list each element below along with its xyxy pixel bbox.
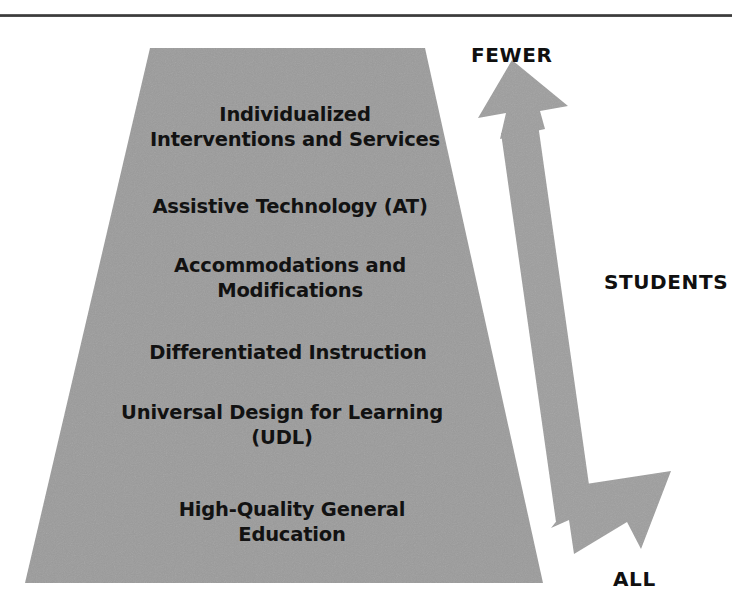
arrow-top-label: FEWER xyxy=(471,43,552,67)
pyramid-tier-label-high-quality-general-education: High-Quality General Education xyxy=(134,497,450,547)
arrow-bottom-label: ALL xyxy=(613,567,656,591)
figure-canvas: Individualized Interventions and Service… xyxy=(0,0,732,610)
pyramid-tier-label-differentiated-instruction: Differentiated Instruction xyxy=(120,340,456,365)
pyramid-tier-label-individualized: Individualized Interventions and Service… xyxy=(140,102,450,152)
pyramid-tier-label-accommodations: Accommodations and Modifications xyxy=(132,253,448,303)
pyramid-tier-label-assistive-technology: Assistive Technology (AT) xyxy=(130,194,450,219)
pyramid-tier-label-udl: Universal Design for Learning (UDL) xyxy=(112,400,452,450)
arrow-middle-label: STUDENTS xyxy=(604,270,728,294)
